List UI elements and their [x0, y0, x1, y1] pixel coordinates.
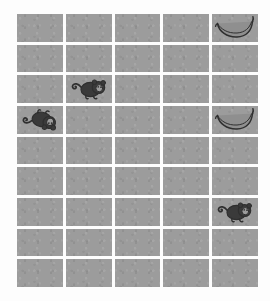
empty-cell[interactable] — [17, 14, 63, 42]
empty-cell[interactable] — [163, 198, 209, 226]
empty-cell[interactable] — [66, 45, 112, 73]
empty-cell[interactable] — [212, 259, 258, 287]
monkey-cell[interactable] — [17, 106, 63, 134]
empty-cell[interactable] — [115, 137, 161, 165]
empty-cell[interactable] — [212, 137, 258, 165]
empty-cell[interactable] — [115, 45, 161, 73]
empty-cell[interactable] — [17, 167, 63, 195]
monkey-icon — [17, 106, 63, 134]
empty-cell[interactable] — [163, 75, 209, 103]
empty-cell[interactable] — [163, 45, 209, 73]
empty-cell[interactable] — [17, 198, 63, 226]
empty-cell[interactable] — [115, 229, 161, 257]
empty-cell[interactable] — [66, 229, 112, 257]
empty-cell[interactable] — [163, 137, 209, 165]
empty-cell[interactable] — [163, 259, 209, 287]
empty-cell[interactable] — [17, 229, 63, 257]
empty-cell[interactable] — [66, 137, 112, 165]
banana-cell[interactable] — [212, 14, 258, 42]
monkey-cell[interactable] — [212, 198, 258, 226]
empty-cell[interactable] — [212, 45, 258, 73]
empty-cell[interactable] — [163, 14, 209, 42]
empty-cell[interactable] — [17, 137, 63, 165]
empty-cell[interactable] — [66, 259, 112, 287]
empty-cell[interactable] — [66, 106, 112, 134]
empty-cell[interactable] — [212, 75, 258, 103]
banana-icon — [212, 14, 258, 42]
empty-cell[interactable] — [212, 167, 258, 195]
empty-cell[interactable] — [66, 14, 112, 42]
empty-cell[interactable] — [17, 45, 63, 73]
empty-cell[interactable] — [17, 75, 63, 103]
empty-cell[interactable] — [212, 229, 258, 257]
banana-cell[interactable] — [212, 106, 258, 134]
banana-icon — [212, 106, 258, 134]
empty-cell[interactable] — [163, 106, 209, 134]
empty-cell[interactable] — [163, 167, 209, 195]
monkey-cell[interactable] — [66, 75, 112, 103]
empty-cell[interactable] — [115, 106, 161, 134]
empty-cell[interactable] — [115, 259, 161, 287]
empty-cell[interactable] — [115, 14, 161, 42]
empty-cell[interactable] — [66, 198, 112, 226]
empty-cell[interactable] — [115, 75, 161, 103]
empty-cell[interactable] — [17, 259, 63, 287]
empty-cell[interactable] — [66, 167, 112, 195]
empty-cell[interactable] — [115, 167, 161, 195]
monkey-icon — [212, 198, 258, 226]
monkey-icon — [66, 75, 112, 103]
game-board — [17, 14, 258, 287]
empty-cell[interactable] — [115, 198, 161, 226]
empty-cell[interactable] — [163, 229, 209, 257]
